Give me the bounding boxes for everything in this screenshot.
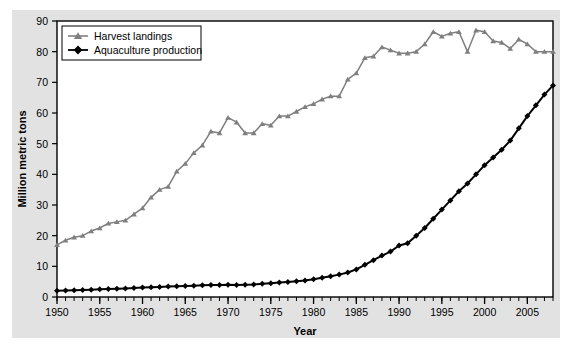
chart-legend: Harvest landings Aquaculture production: [62, 26, 202, 60]
x-tick-label: 2005: [516, 306, 540, 318]
x-tick-label: 1995: [430, 306, 454, 318]
y-axis-ticks: [52, 21, 57, 297]
x-tick-label: 1950: [45, 306, 69, 318]
y-tick-label: 50: [36, 138, 48, 150]
x-tick-label: 1970: [216, 306, 240, 318]
x-tick-label: 1990: [387, 306, 411, 318]
y-tick-label: 0: [42, 291, 48, 303]
x-tick-label: 1965: [174, 306, 198, 318]
y-tick-label: 60: [36, 107, 48, 119]
y-tick-label: 80: [36, 46, 48, 58]
x-axis-title: Year: [293, 325, 317, 337]
x-tick-label: 1955: [88, 306, 112, 318]
y-axis-title: Million metric tons: [16, 110, 28, 207]
x-tick-label: 1975: [259, 306, 283, 318]
y-axis-tick-labels: 0102030405060708090: [36, 15, 48, 303]
plot-area: [57, 21, 553, 297]
legend-label-harvest: Harvest landings: [94, 30, 172, 42]
y-tick-label: 70: [36, 76, 48, 88]
y-tick-label: 40: [36, 168, 48, 180]
x-axis-tick-labels: 1950195519601965197019751980198519901995…: [45, 306, 539, 318]
y-tick-label: 20: [36, 230, 48, 242]
y-tick-label: 90: [36, 15, 48, 27]
x-tick-label: 1980: [302, 306, 326, 318]
x-tick-label: 2000: [473, 306, 497, 318]
chart-canvas: 0102030405060708090 19501955196019651970…: [0, 0, 568, 348]
x-tick-label: 1960: [131, 306, 155, 318]
legend-label-aquaculture: Aquaculture production: [94, 44, 202, 56]
x-tick-label: 1985: [345, 306, 369, 318]
figure-container: 0102030405060708090 19501955196019651970…: [0, 0, 568, 348]
x-axis-major-ticks: [57, 297, 527, 304]
y-tick-label: 10: [36, 260, 48, 272]
y-tick-label: 30: [36, 199, 48, 211]
